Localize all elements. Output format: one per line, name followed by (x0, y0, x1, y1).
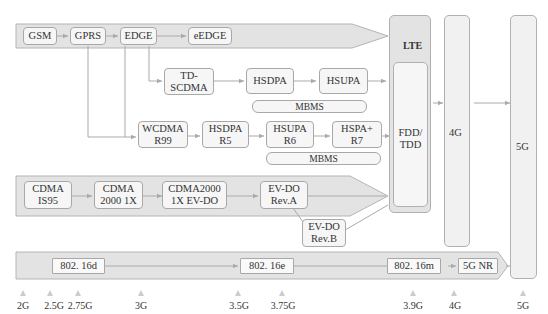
eedge-node[interactable]: eEDGE (188, 27, 232, 45)
gprs-node[interactable]: GPRS (70, 27, 106, 45)
evdo-line1: CDMA2000 (168, 183, 221, 195)
evdo-line2: 1X EV-DO (171, 195, 218, 207)
hsdpa-line2: R5 (219, 135, 231, 147)
lte-label: LTE (403, 40, 422, 51)
revb-line2: Rev.B (311, 233, 337, 245)
td-hsupa-node[interactable]: HSUPA (319, 68, 368, 94)
reva-line2: Rev.A (271, 195, 297, 207)
td-scdma-line1: TD- (180, 70, 198, 82)
td-scdma-node[interactable]: TD- SCDMA (164, 68, 214, 95)
5g-nr-node[interactable]: 5G NR (458, 258, 498, 274)
hspa-line1: HSPA+ (341, 123, 373, 135)
hsupa-r6-node[interactable]: HSUPA R6 (266, 121, 314, 148)
ieee-802-16e-node[interactable]: 802. 16e (240, 258, 294, 274)
td-mbms-bar[interactable]: MBMS (252, 100, 367, 113)
fdd-label: FDD/ (393, 127, 428, 139)
td-hsdpa-node[interactable]: HSDPA (246, 68, 294, 94)
is95-line1: CDMA (32, 183, 64, 195)
ieee-802-16m-node[interactable]: 802. 16m (387, 258, 441, 274)
gen-label-2-5g: 2.5G (44, 300, 64, 311)
evdo-revb-node[interactable]: EV-DO Rev.B (302, 219, 346, 247)
reva-line1: EV-DO (268, 183, 300, 195)
hsupa-line1: HSUPA (273, 123, 306, 135)
gsm-node[interactable]: GSM (23, 27, 57, 45)
hsupa-line2: R6 (284, 135, 296, 147)
evdo-reva-node[interactable]: EV-DO Rev.A (260, 181, 308, 209)
c2000-line1: CDMA (103, 183, 135, 195)
gen-label-2-75g: 2.75G (68, 300, 93, 311)
hsdpa-line1: HSDPA (209, 123, 242, 135)
hspa-line2: R7 (351, 135, 363, 147)
gen-label-3-9g: 3.9G (403, 300, 423, 311)
gen-label-5g: 5G (517, 300, 529, 311)
wcdma-line2: R99 (154, 135, 172, 147)
ieee-802-16d-node[interactable]: 802. 16d (52, 258, 105, 274)
hspa-plus-r7-node[interactable]: HSPA+ R7 (332, 121, 382, 148)
is95-line2: IS95 (38, 195, 58, 207)
edge-node[interactable]: EDGE (120, 27, 157, 45)
cdma-is95-node[interactable]: CDMA IS95 (24, 181, 72, 209)
tdd-label: TDD (393, 139, 428, 151)
revb-line1: EV-DO (308, 221, 340, 233)
wcdma-line1: WCDMA (142, 123, 183, 135)
td-scdma-line2: SCDMA (170, 82, 207, 94)
gen-label-3-75g: 3.75G (271, 300, 296, 311)
cdma2000-evdo-node[interactable]: CDMA2000 1X EV-DO (162, 181, 227, 209)
c2000-line2: 2000 1X (100, 195, 136, 207)
4g-column-label: 4G (449, 127, 462, 138)
gen-label-4g: 4G (449, 300, 461, 311)
5g-column-label: 5G (516, 141, 529, 152)
gen-label-3-5g: 3.5G (229, 300, 249, 311)
hsdpa-r5-node[interactable]: HSDPA R5 (202, 121, 249, 148)
wcdma-mbms-bar[interactable]: MBMS (266, 152, 381, 165)
fdd-tdd-label: FDD/ TDD (393, 127, 428, 151)
gen-label-3g: 3G (135, 300, 147, 311)
wcdma-r99-node[interactable]: WCDMA R99 (138, 121, 188, 148)
gen-label-2g: 2G (17, 300, 29, 311)
cdma2000-1x-node[interactable]: CDMA 2000 1X (94, 181, 143, 209)
